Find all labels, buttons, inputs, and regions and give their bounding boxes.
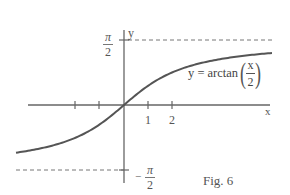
pi-numerator: π	[103, 31, 113, 43]
x-tick-label-2: 2	[169, 114, 175, 126]
x-tick-label-1: 1	[145, 114, 151, 126]
pi-denominator: 2	[145, 179, 155, 191]
pi-numerator: π	[145, 164, 155, 176]
y-label-neg-pi-over-2: π 2	[145, 164, 155, 191]
pi-denominator: 2	[103, 46, 113, 58]
curve-equation-label: y = arctan ( x 2 )	[188, 58, 263, 88]
equation-numerator: x	[248, 59, 254, 71]
fraction-bar	[246, 73, 255, 74]
x-axis-label: x	[265, 106, 271, 117]
figure-caption: Fig. 6	[203, 174, 233, 187]
equation-fraction: x 2	[246, 59, 255, 88]
equation-denominator: 2	[248, 76, 254, 88]
equation-lhs: y = arctan	[188, 66, 238, 81]
minus-sign: −	[135, 171, 141, 182]
y-label-pi-over-2: π 2	[103, 31, 113, 58]
y-axis-label: y	[128, 27, 134, 39]
close-paren: )	[255, 58, 261, 88]
open-paren: (	[240, 58, 246, 88]
